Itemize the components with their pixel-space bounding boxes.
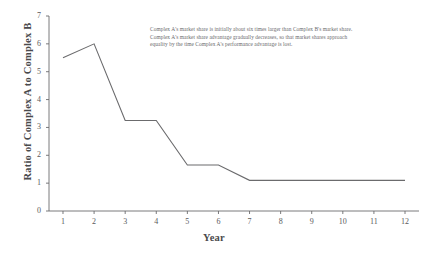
y-tick-label: 0 <box>27 206 41 215</box>
chart-figure: Ratio of Complex A to Complex B Year Com… <box>0 0 428 263</box>
x-tick-label: 8 <box>273 217 289 226</box>
x-tick-label: 2 <box>86 217 102 226</box>
y-tick-label: 6 <box>27 39 41 48</box>
y-tick-label: 3 <box>27 122 41 131</box>
annotation-line-1: Complex A's market share is initially ab… <box>150 26 428 34</box>
y-tick-label: 7 <box>27 11 41 20</box>
x-tick-label: 4 <box>148 217 164 226</box>
x-tick-label: 5 <box>179 217 195 226</box>
x-tick-label: 10 <box>335 217 351 226</box>
x-tick-label: 12 <box>397 217 413 226</box>
annotation-line-2: Complex A's market share advantage gradu… <box>150 34 428 42</box>
annotation-line-3: equality by the time Complex A's perform… <box>150 41 428 49</box>
y-tick-label: 1 <box>27 178 41 187</box>
y-tick-label: 4 <box>27 95 41 104</box>
x-tick-label: 6 <box>210 217 226 226</box>
x-tick-label: 9 <box>304 217 320 226</box>
x-tick-label: 7 <box>242 217 258 226</box>
x-tick-label: 11 <box>366 217 382 226</box>
chart-annotation: Complex A's market share is initially ab… <box>150 26 428 49</box>
x-axis-title: Year <box>0 232 428 243</box>
x-tick-label: 3 <box>117 217 133 226</box>
y-tick-label: 2 <box>27 150 41 159</box>
x-tick-label: 1 <box>55 217 71 226</box>
y-tick-label: 5 <box>27 67 41 76</box>
